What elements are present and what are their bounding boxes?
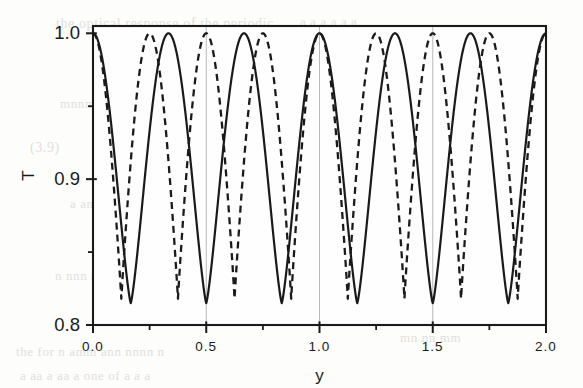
x-tick-label: 1.0 [309, 339, 331, 354]
figure-panel: the optical response of the periodica a … [0, 0, 583, 388]
transmission-spectrum-chart: 0.80.91.00.00.51.01.52.0yT [0, 0, 583, 388]
x-axis-label: y [315, 366, 324, 385]
x-tick-label: 2.0 [535, 339, 557, 354]
y-tick-label: 0.9 [54, 168, 80, 189]
y-tick-label: 1.0 [54, 22, 80, 43]
x-tick-label: 0.5 [195, 339, 217, 354]
x-tick-label: 0.0 [82, 339, 104, 354]
y-tick-label: 0.8 [54, 314, 80, 335]
x-tick-label: 1.5 [422, 339, 444, 354]
y-axis-label: T [19, 170, 38, 180]
